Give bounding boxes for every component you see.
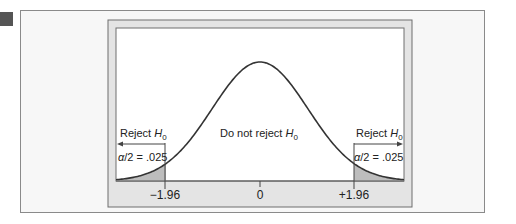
tick-label-center: 0: [257, 188, 264, 202]
alpha-left-label: α/2 = .025: [118, 151, 167, 163]
normal-distribution-chart: Reject H0 Do not reject H0 Reject H0 α/2…: [0, 0, 516, 224]
alpha-right-label: α/2 = .025: [354, 151, 403, 163]
tick-label-right: +1.96: [339, 188, 370, 202]
tick-label-left: −1.96: [150, 188, 181, 202]
